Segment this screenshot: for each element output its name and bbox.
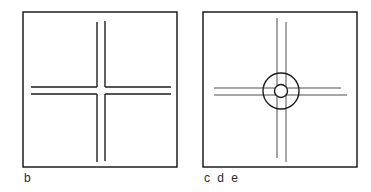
panel-cde-inner-circle (275, 85, 288, 98)
panel-b (23, 12, 177, 167)
panel-cde (203, 12, 357, 167)
panel-b-frame (23, 12, 177, 167)
figure-canvas (0, 0, 371, 192)
panel-cde-label: c d e (204, 172, 240, 184)
panel-b-label: b (24, 172, 32, 184)
